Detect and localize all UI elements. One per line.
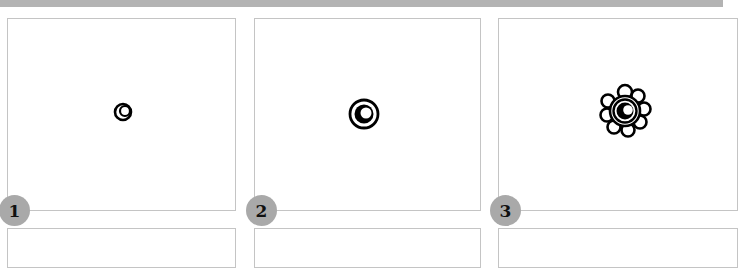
flower-rosette-icon xyxy=(597,83,653,139)
top-divider-bar xyxy=(0,0,723,7)
step-number: 1 xyxy=(9,201,21,221)
step-panel-1 xyxy=(7,18,236,211)
step-panel-4 xyxy=(7,228,236,268)
step-panel-5 xyxy=(254,228,481,268)
step-panel-6 xyxy=(498,228,738,268)
step-number: 3 xyxy=(500,201,512,221)
step-badge-1: 1 xyxy=(0,195,30,226)
ring-with-crescent-core-icon xyxy=(347,97,381,131)
step-panel-3 xyxy=(498,18,738,211)
step-panel-2 xyxy=(254,18,481,211)
step-badge-3: 3 xyxy=(490,195,521,226)
step-number: 2 xyxy=(256,201,268,221)
small-crescent-ring-icon xyxy=(112,101,134,123)
step-badge-2: 2 xyxy=(246,195,277,226)
